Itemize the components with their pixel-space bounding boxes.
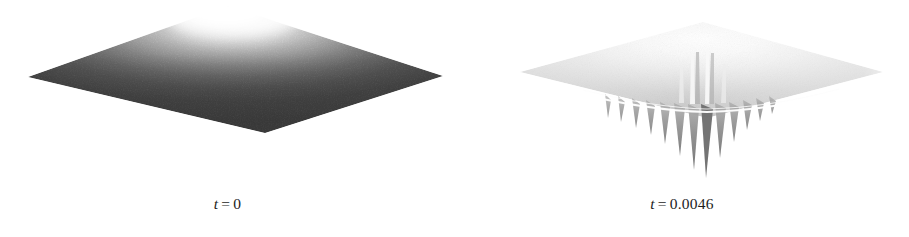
surface-svg-t00046 xyxy=(455,0,909,190)
caption-value-left: 0 xyxy=(233,195,241,212)
panel-caption-right: t=0.0046 xyxy=(455,193,909,215)
caption-value-right: 0.0046 xyxy=(670,195,714,212)
surface-plot-t00046 xyxy=(455,0,909,190)
panel-caption-left: t=0 xyxy=(0,193,455,215)
caption-equals-left: = xyxy=(218,195,233,212)
surface-panel-right: t=0.0046 xyxy=(455,0,909,237)
surface-svg-t0 xyxy=(0,0,455,190)
dome-highlight-core xyxy=(188,2,264,24)
surface-panel-left: t=0 xyxy=(0,0,455,237)
surface-plot-t0 xyxy=(0,0,455,190)
caption-equals-right: = xyxy=(655,195,670,212)
figure-container: t=0 xyxy=(0,0,909,237)
